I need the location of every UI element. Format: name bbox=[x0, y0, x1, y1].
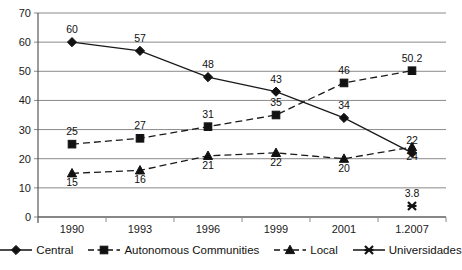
data-label: 21 bbox=[202, 159, 214, 171]
data-label: 25 bbox=[66, 125, 78, 137]
data-point-marker-0-3 bbox=[271, 87, 280, 96]
data-point-marker-0-2 bbox=[203, 73, 212, 82]
data-point-marker-1-5 bbox=[408, 67, 416, 75]
series-line bbox=[72, 71, 412, 144]
data-label: 15 bbox=[66, 176, 78, 188]
series-central: 605748433422 bbox=[66, 23, 418, 157]
series-autonomous-communities: 252731354650.2 bbox=[66, 52, 422, 148]
y-axis-tick-label: 10 bbox=[19, 182, 31, 194]
legend-item-local[interactable]: Local bbox=[273, 243, 338, 257]
series-line bbox=[72, 42, 412, 153]
data-label: 48 bbox=[202, 58, 214, 70]
y-axis-tick-label: 40 bbox=[19, 94, 31, 106]
legend-symbol-cross-icon bbox=[352, 243, 386, 257]
y-axis-tick-label: 0 bbox=[25, 211, 31, 223]
legend-item-label: Autonomous Communities bbox=[124, 244, 259, 256]
legend-item-universidades[interactable]: Universidades bbox=[352, 243, 462, 257]
chart-plot-area: 010203040506070199019931996199920011.200… bbox=[0, 0, 461, 243]
data-point-marker-legend-0 bbox=[12, 245, 21, 254]
x-axis-tick-label: 2001 bbox=[332, 223, 356, 235]
legend-symbol-triangle-icon bbox=[273, 243, 307, 257]
x-axis-tick-label: 1996 bbox=[196, 223, 220, 235]
y-axis-tick-label: 70 bbox=[19, 7, 31, 19]
y-axis-tick-label: 20 bbox=[19, 153, 31, 165]
y-gridlines: 010203040506070 bbox=[19, 7, 446, 223]
data-point-marker-legend-1 bbox=[101, 246, 109, 254]
data-label: 46 bbox=[338, 64, 350, 76]
legend-item-label: Local bbox=[310, 244, 338, 256]
data-point-marker-3-5 bbox=[408, 202, 417, 210]
y-axis-tick-label: 50 bbox=[19, 65, 31, 77]
data-label: 20 bbox=[338, 162, 350, 174]
data-point-marker-0-4 bbox=[339, 113, 348, 122]
data-label: 31 bbox=[202, 108, 214, 120]
x-axis-tick-label: 1993 bbox=[128, 223, 152, 235]
legend-symbol-diamond-icon bbox=[0, 243, 33, 257]
data-label: 57 bbox=[134, 32, 146, 44]
data-label: 50.2 bbox=[402, 52, 423, 64]
data-label: 27 bbox=[134, 119, 146, 131]
series-universidades: 3.8 bbox=[405, 187, 420, 210]
legend-item-label: Universidades bbox=[389, 244, 462, 256]
data-point-marker-legend-3 bbox=[364, 246, 373, 254]
legend-item-label: Central bbox=[36, 244, 73, 256]
data-label: 24 bbox=[406, 150, 418, 162]
data-label: 22 bbox=[270, 156, 282, 168]
data-point-marker-1-4 bbox=[340, 79, 348, 87]
legend-item-central[interactable]: Central bbox=[0, 243, 73, 257]
data-label: 16 bbox=[134, 173, 146, 185]
data-label: 3.8 bbox=[405, 187, 420, 199]
x-axis-ticks: 199019931996199920011.2007 bbox=[38, 217, 446, 235]
x-axis-tick-label: 1990 bbox=[60, 223, 84, 235]
data-point-marker-1-1 bbox=[136, 135, 144, 143]
data-point-marker-0-1 bbox=[135, 46, 144, 55]
y-axis-tick-label: 30 bbox=[19, 124, 31, 136]
data-label: 35 bbox=[270, 96, 282, 108]
series-local: 151621222024 bbox=[66, 142, 418, 188]
data-point-marker-0-0 bbox=[67, 38, 76, 47]
data-label: 60 bbox=[66, 23, 78, 35]
x-axis-tick-label: 1.2007 bbox=[395, 223, 429, 235]
series-line bbox=[72, 147, 412, 173]
data-point-marker-1-3 bbox=[272, 111, 280, 119]
data-point-marker-1-0 bbox=[68, 140, 76, 148]
data-point-marker-1-2 bbox=[204, 123, 212, 131]
data-label: 43 bbox=[270, 73, 282, 85]
data-label: 34 bbox=[338, 99, 350, 111]
chart-legend: CentralAutonomous CommunitiesLocalUniver… bbox=[0, 243, 461, 257]
y-axis-tick-label: 60 bbox=[19, 36, 31, 48]
x-axis-tick-label: 1999 bbox=[264, 223, 288, 235]
legend-symbol-square-icon bbox=[87, 243, 121, 257]
legend-item-autonomous-communities[interactable]: Autonomous Communities bbox=[87, 243, 259, 257]
